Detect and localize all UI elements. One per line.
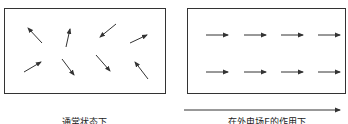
dipole-arrow-icon: [100, 24, 116, 37]
dipole-arrow-icon: [66, 29, 70, 47]
dipole-arrow-icon: [24, 62, 41, 72]
label-normal-state: 通常状态下: [44, 115, 124, 124]
dipole-arrow-icon: [28, 28, 42, 43]
dipole-arrow-icon: [135, 62, 148, 79]
random-dipole-arrows: [24, 24, 148, 79]
dipole-arrow-icon: [130, 35, 147, 43]
aligned-dipole-arrows: [206, 35, 340, 72]
dipole-arrow-icon: [62, 59, 74, 75]
dipole-arrows-layer: [0, 0, 348, 124]
label-external-field: 在外电场E的作用下: [212, 115, 322, 124]
dipole-arrow-icon: [96, 55, 110, 71]
